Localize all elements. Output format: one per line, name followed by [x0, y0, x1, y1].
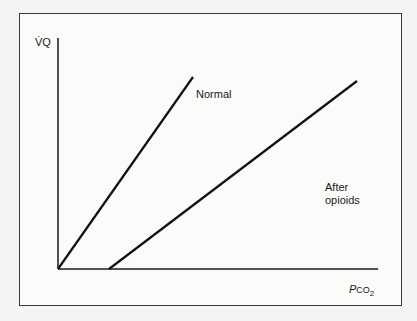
x-axis-label-subscript: 2	[370, 289, 374, 298]
normal-curve-label: Normal	[196, 88, 231, 100]
y-axis-label: V̇Q	[35, 36, 51, 48]
after-opioids-curve-label: After opioids	[325, 181, 360, 207]
x-axis-label: PCO2	[349, 283, 374, 300]
after-opioids-curve	[109, 81, 357, 269]
x-axis-label-co: CO	[356, 285, 370, 295]
normal-curve	[58, 77, 193, 269]
after-opioids-label-line1: After	[325, 181, 360, 194]
plot-area	[0, 0, 417, 321]
after-opioids-label-line2: opioids	[325, 194, 360, 207]
